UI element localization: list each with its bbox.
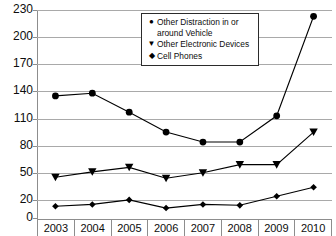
data-point-marker [273, 193, 280, 200]
line-chart: 2302001701401108050200 ● Other Distracti… [0, 0, 336, 236]
x-tick-label: 2007 [184, 220, 222, 236]
data-point-marker [237, 202, 244, 209]
data-point-marker [89, 201, 96, 208]
x-tick-label: 2010 [294, 220, 332, 236]
data-point-marker [89, 90, 96, 97]
legend-item-other-distraction: ● Other Distraction in or around Vehicle [146, 17, 254, 38]
data-point-marker [310, 13, 317, 20]
chart-legend: ● Other Distraction in or around Vehicle… [141, 13, 259, 66]
x-tick-label: 2003 [37, 220, 75, 236]
x-axis: 20032004200520062007200820092010 [37, 219, 332, 236]
x-tick-label: 2009 [258, 220, 296, 236]
x-tick-label: 2005 [111, 220, 149, 236]
data-point-marker [200, 201, 207, 208]
data-point-marker [310, 184, 317, 191]
x-tick-label: 2006 [147, 220, 185, 236]
legend-label-cell-phones: Cell Phones [157, 51, 254, 62]
legend-item-other-electronic-devices: ▼ Other Electronic Devices [146, 39, 254, 50]
data-point-marker [126, 197, 133, 204]
data-point-marker [163, 205, 170, 212]
circle-marker-icon: ● [146, 17, 157, 28]
x-tick-label: 2004 [74, 220, 112, 236]
triangle-marker-icon: ▼ [146, 39, 157, 50]
data-point-marker [126, 109, 133, 116]
legend-label-other-electronic-devices: Other Electronic Devices [157, 39, 254, 50]
data-point-marker [52, 203, 59, 210]
data-point-marker [52, 93, 59, 100]
data-point-marker [273, 112, 280, 119]
series-diamond [52, 184, 317, 211]
data-point-marker [162, 175, 170, 183]
data-point-marker [200, 139, 207, 146]
data-point-marker [236, 139, 243, 146]
legend-item-cell-phones: ◆ Cell Phones [146, 51, 254, 62]
diamond-marker-icon: ◆ [146, 51, 157, 62]
data-point-marker [163, 129, 170, 136]
data-point-marker [51, 174, 59, 182]
legend-label-other-distraction: Other Distraction in or around Vehicle [157, 17, 254, 38]
x-tick-label: 2008 [221, 220, 259, 236]
